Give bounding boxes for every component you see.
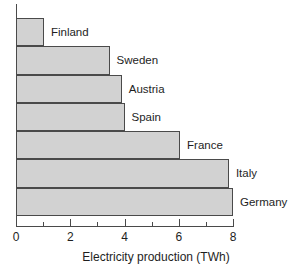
plot-area: FinlandSwedenAustriaSpainFranceItalyGerm…	[16, 18, 233, 216]
bar-label-austria: Austria	[122, 75, 165, 103]
x-tick-minor	[152, 222, 153, 227]
bar-label-sweden: Sweden	[110, 46, 159, 74]
bar-label-italy: Italy	[229, 159, 257, 187]
bar-chart: FinlandSwedenAustriaSpainFranceItalyGerm…	[0, 0, 294, 271]
x-tick-major	[233, 219, 234, 227]
x-axis-title: Electricity production (TWh)	[0, 250, 294, 264]
x-tick-label: 6	[175, 230, 182, 244]
bar-row: Germany	[16, 188, 233, 216]
x-tick-major	[125, 219, 126, 227]
bar-label-spain: Spain	[125, 103, 161, 131]
bar-row: Finland	[16, 18, 233, 46]
x-tick-minor	[97, 222, 98, 227]
x-tick-label: 0	[13, 230, 20, 244]
bar-france[interactable]	[16, 131, 180, 159]
y-axis-line	[16, 4, 17, 226]
x-tick-label: 8	[230, 230, 237, 244]
bar-row: Austria	[16, 75, 233, 103]
bar-germany[interactable]	[16, 188, 233, 216]
x-tick-major	[16, 219, 17, 227]
bar-row: France	[16, 131, 233, 159]
x-tick-minor	[206, 222, 207, 227]
bar-italy[interactable]	[16, 159, 229, 187]
bar-sweden[interactable]	[16, 46, 110, 74]
bar-label-germany: Germany	[233, 188, 287, 216]
bar-austria[interactable]	[16, 75, 122, 103]
x-tick-label: 4	[121, 230, 128, 244]
bar-finland[interactable]	[16, 18, 44, 46]
bar-label-france: France	[180, 131, 223, 159]
bar-spain[interactable]	[16, 103, 125, 131]
x-tick-major	[179, 219, 180, 227]
bar-row: Spain	[16, 103, 233, 131]
bar-row: Italy	[16, 159, 233, 187]
bar-label-finland: Finland	[44, 18, 89, 46]
x-tick-major	[70, 219, 71, 227]
x-tick-label: 2	[67, 230, 74, 244]
x-tick-minor	[43, 222, 44, 227]
bar-row: Sweden	[16, 46, 233, 74]
